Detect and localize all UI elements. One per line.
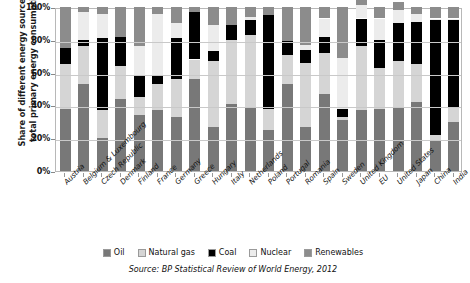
legend-label: Oil (114, 248, 125, 257)
x-tick-label-china: China (432, 165, 453, 186)
source-note: Source: BP Statistical Review of World E… (0, 265, 466, 274)
legend-item-renewables[interactable]: Renewables (304, 248, 363, 257)
legend-swatch-icon (138, 249, 146, 257)
legend-label: Renewables (315, 248, 363, 257)
legend-item-nuclear[interactable]: Nuclear (249, 248, 291, 257)
legend-item-natural-gas[interactable]: Natural gas (138, 248, 195, 257)
legend-swatch-icon (103, 249, 111, 257)
legend-label: Nuclear (260, 248, 291, 257)
legend-swatch-icon (208, 249, 216, 257)
legend-swatch-icon (249, 249, 257, 257)
legend-swatch-icon (304, 249, 312, 257)
x-tick-label-india: India (451, 168, 470, 187)
x-tick-label-italy: Italy (229, 169, 246, 186)
chart-legend: OilNatural gasCoalNuclearRenewables (0, 248, 466, 257)
legend-label: Natural gas (149, 248, 195, 257)
legend-item-oil[interactable]: Oil (103, 248, 125, 257)
x-tick-label-eu: EU (377, 173, 390, 186)
legend-item-coal[interactable]: Coal (208, 248, 237, 257)
legend-label: Coal (219, 248, 237, 257)
